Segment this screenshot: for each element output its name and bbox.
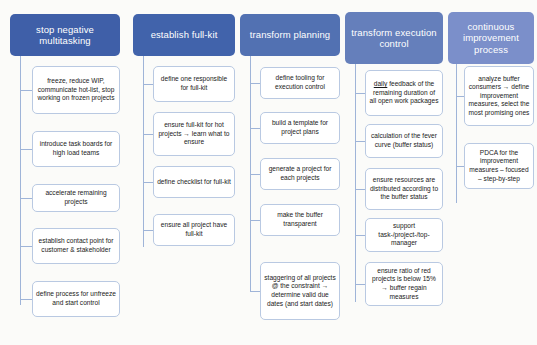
- connector-stub-stop-negative-multitasking-4: [20, 299, 32, 300]
- connector-stub-stop-negative-multitasking-0: [20, 90, 32, 91]
- node-label: define one responsible for full-kit: [157, 75, 231, 92]
- node-label: calculation of the fever curve (buffer s…: [369, 132, 439, 149]
- node-label: freeze, reduce WIP, communicate hot-list…: [36, 77, 116, 103]
- implementation-roadmap-diagram: stop negative multitaskingfreeze, reduce…: [0, 0, 537, 345]
- node-stop-negative-multitasking-1[interactable]: introduce task boards for high load team…: [32, 131, 120, 167]
- node-label: define tooling for execution control: [264, 74, 336, 91]
- column-establish-full-kit: establish full-kitdefine one responsible…: [133, 0, 235, 345]
- node-label: define process for unfreeze and start co…: [36, 290, 116, 307]
- node-label: build a template for project plans: [264, 119, 336, 136]
- node-continuous-improvement-process-0[interactable]: analyze buffer consumers → define improv…: [464, 66, 534, 126]
- connector-trunk-continuous-improvement-process: [456, 64, 457, 203]
- node-label: support task-/project-/top-manager: [369, 222, 439, 248]
- node-label: analyze buffer consumers → define improv…: [468, 75, 530, 118]
- column-transform-execution-control: transform execution controldaily feedbac…: [345, 0, 443, 345]
- node-label: ensure full-kit for hot projects → learn…: [157, 121, 231, 147]
- node-label: ensure resources are distributed accordi…: [369, 176, 439, 202]
- connector-stub-stop-negative-multitasking-1: [20, 149, 32, 150]
- node-label: make the buffer transparent: [264, 211, 336, 228]
- connector-stub-transform-execution-control-4: [355, 284, 365, 285]
- node-establish-full-kit-3[interactable]: ensure all project have full-kit: [153, 214, 235, 246]
- column-continuous-improvement-process: continuous improvement processanalyze bu…: [448, 0, 534, 345]
- node-transform-planning-0[interactable]: define tooling for execution control: [260, 67, 340, 99]
- column-header-transform-execution-control[interactable]: transform execution control: [345, 12, 443, 64]
- connector-stub-stop-negative-multitasking-3: [20, 246, 32, 247]
- connector-stub-transform-planning-3: [250, 220, 260, 221]
- column-header-establish-full-kit[interactable]: establish full-kit: [133, 14, 235, 56]
- connector-stub-stop-negative-multitasking-2: [20, 198, 32, 199]
- node-label: introduce task boards for high load team…: [36, 140, 116, 157]
- node-transform-planning-1[interactable]: build a template for project plans: [260, 112, 340, 144]
- node-establish-full-kit-1[interactable]: ensure full-kit for hot projects → learn…: [153, 112, 235, 156]
- connector-stub-transform-planning-1: [250, 128, 260, 129]
- node-label: ensure ratio of red projects is below 15…: [369, 267, 439, 301]
- connector-stub-transform-execution-control-1: [355, 141, 365, 142]
- connector-stub-establish-full-kit-1: [143, 134, 153, 135]
- node-label: PDCA for the improvement measures – focu…: [468, 149, 530, 183]
- node-label: staggering of all projects @ the constra…: [264, 274, 336, 308]
- connector-stub-establish-full-kit-2: [143, 182, 153, 183]
- node-transform-execution-control-0[interactable]: daily feedback of the remaining duration…: [365, 70, 443, 116]
- column-header-continuous-improvement-process[interactable]: continuous improvement process: [448, 12, 534, 64]
- node-establish-full-kit-0[interactable]: define one responsible for full-kit: [153, 66, 235, 102]
- node-label: accelerate remaining projects: [36, 189, 116, 206]
- node-transform-execution-control-2[interactable]: ensure resources are distributed accordi…: [365, 168, 443, 210]
- connector-trunk-stop-negative-multitasking: [20, 56, 21, 305]
- node-label: ensure all project have full-kit: [157, 221, 231, 238]
- node-transform-execution-control-1[interactable]: calculation of the fever curve (buffer s…: [365, 124, 443, 158]
- connector-stub-transform-execution-control-2: [355, 189, 365, 190]
- connector-stub-transform-planning-4: [250, 291, 260, 292]
- node-transform-execution-control-4[interactable]: ensure ratio of red projects is below 15…: [365, 262, 443, 306]
- connector-stub-continuous-improvement-process-1: [456, 166, 464, 167]
- column-header-transform-planning[interactable]: transform planning: [240, 14, 340, 56]
- connector-stub-transform-planning-2: [250, 174, 260, 175]
- column-transform-planning: transform planningdefine tooling for exe…: [240, 0, 340, 345]
- connector-stub-establish-full-kit-0: [143, 84, 153, 85]
- node-continuous-improvement-process-1[interactable]: PDCA for the improvement measures – focu…: [464, 143, 534, 189]
- column-header-stop-negative-multitasking[interactable]: stop negative multitasking: [10, 14, 120, 56]
- node-stop-negative-multitasking-2[interactable]: accelerate remaining projects: [32, 184, 120, 212]
- connector-trunk-transform-execution-control: [355, 64, 356, 302]
- node-transform-planning-4[interactable]: staggering of all projects @ the constra…: [260, 262, 340, 320]
- node-label: define checklist for full-kit: [157, 178, 231, 187]
- node-stop-negative-multitasking-3[interactable]: establish contact point for customer & s…: [32, 228, 120, 264]
- connector-stub-transform-execution-control-3: [355, 235, 365, 236]
- node-stop-negative-multitasking-0[interactable]: freeze, reduce WIP, communicate hot-list…: [32, 66, 120, 114]
- node-establish-full-kit-2[interactable]: define checklist for full-kit: [153, 166, 235, 198]
- connector-stub-establish-full-kit-3: [143, 230, 153, 231]
- node-transform-planning-3[interactable]: make the buffer transparent: [260, 204, 340, 236]
- node-transform-planning-2[interactable]: generate a project for each projects: [260, 158, 340, 190]
- connector-stub-transform-planning-0: [250, 83, 260, 84]
- connector-stub-transform-execution-control-0: [355, 93, 365, 94]
- column-stop-negative-multitasking: stop negative multitaskingfreeze, reduce…: [10, 0, 120, 345]
- node-label: establish contact point for customer & s…: [36, 237, 116, 254]
- connector-stub-continuous-improvement-process-0: [456, 96, 464, 97]
- node-label: daily feedback of the remaining duration…: [369, 80, 439, 106]
- node-transform-execution-control-3[interactable]: support task-/project-/top-manager: [365, 218, 443, 252]
- node-stop-negative-multitasking-4[interactable]: define process for unfreeze and start co…: [32, 281, 120, 317]
- node-label: generate a project for each projects: [264, 165, 336, 182]
